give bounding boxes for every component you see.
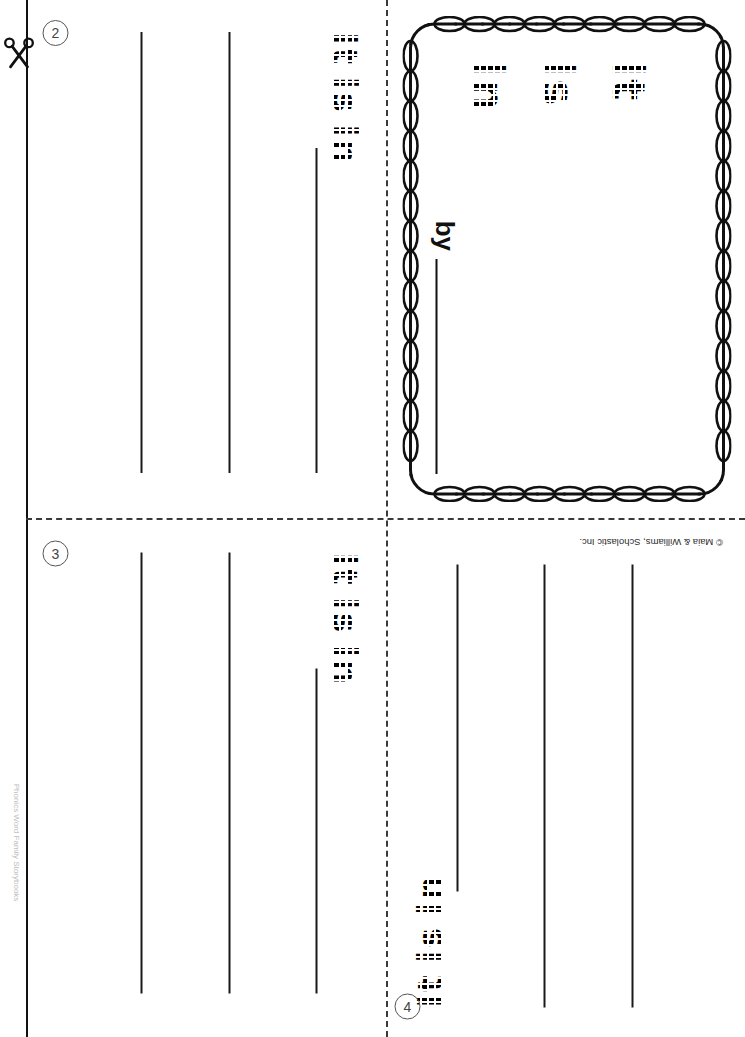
byline-label: by [428,221,459,251]
page2-write-line-3[interactable] [140,32,142,473]
byline-write-line[interactable] [435,259,437,474]
margin-credit: Phonics Word Family Storybooks [12,784,21,902]
page-number-2: 2 [42,20,68,46]
page2-word-2: is [327,77,361,115]
page4-sentence: It is in [412,872,446,1007]
page3-word-3: in [327,645,361,687]
page3-word-2: is [327,597,361,635]
page3-write-line-1[interactable] [315,668,317,993]
page3-write-line-3[interactable] [140,552,142,993]
panel-cover: It Is In by [388,0,745,518]
panel-page-3: It is in 3 [28,520,385,1037]
cover-title-word-1: It [605,60,649,114]
byline: by [428,221,459,474]
cover-title: It Is In [465,60,649,114]
page4-write-line-2[interactable] [543,564,545,1007]
page2-write-line-1[interactable] [315,148,317,473]
panel-page-4: It is in 4 [388,520,745,1037]
panel-page-2: It is in 2 [28,0,385,518]
page2-write-line-2[interactable] [228,32,230,473]
page4-word-2: is [412,924,446,962]
cover-title-word-3: In [465,60,509,114]
page2-word-1: It [327,32,361,67]
worksheet-sheet: It Is In by It is in [0,0,745,1037]
page3-sentence: It is in [327,552,361,687]
page2-sentence: It is in [327,32,361,167]
page2-word-3: in [327,125,361,167]
copyright-notice: © Maia & Williams, Scholastic Inc. [579,537,723,548]
page3-word-1: It [327,552,361,587]
page-number-4: 4 [394,993,420,1019]
page-number-3: 3 [42,540,68,566]
page3-write-line-2[interactable] [228,552,230,993]
cover-title-word-2: Is [535,60,579,114]
page4-word-3: in [412,872,446,914]
page4-write-line-3[interactable] [631,564,633,1007]
page4-write-line-1[interactable] [456,564,458,891]
